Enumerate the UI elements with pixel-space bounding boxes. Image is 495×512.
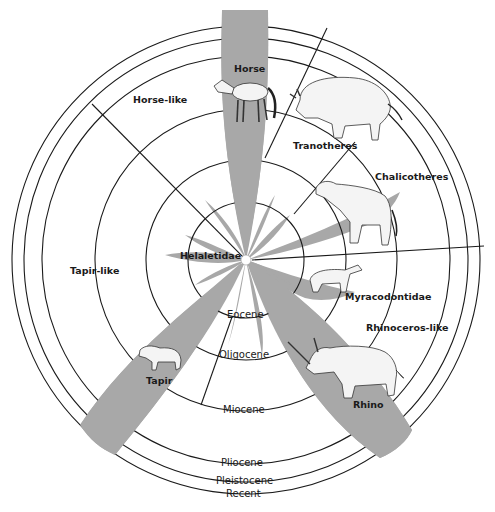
label-helaletidae: Helaletidae — [180, 250, 241, 261]
label-pliocene: Pliocene — [221, 457, 263, 468]
label-tapir-like: Tapir-like — [70, 265, 119, 276]
label-eocene: Eocene — [227, 309, 264, 320]
label-myracodontidae: Myracodontidae — [345, 291, 431, 302]
label-tapir: Tapir — [146, 375, 173, 386]
label-tranotheres: Tranotheres — [293, 140, 358, 151]
label-recent: Recent — [226, 488, 261, 499]
label-pleistocene: Pleistocene — [216, 475, 273, 486]
label-miocene: Miocene — [223, 404, 265, 415]
label-rhinoceros-like: Rhinoceros-like — [366, 322, 449, 333]
evolution-radial-diagram: Horse Horse-like Tranotheres Chalicother… — [0, 0, 495, 512]
divider-horse-tapir — [92, 104, 246, 260]
label-horse: Horse — [234, 63, 265, 74]
label-rhino: Rhino — [353, 399, 384, 410]
label-chalicotheres: Chalicotheres — [375, 171, 449, 182]
label-oligocene: Oligocene — [219, 349, 269, 360]
label-horse-like: Horse-like — [133, 94, 187, 105]
origin-point — [241, 255, 251, 265]
